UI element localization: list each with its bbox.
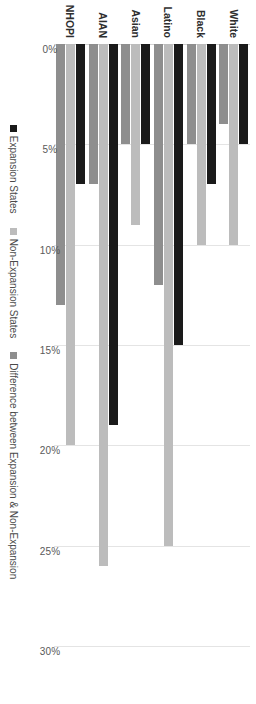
value-axis: 0%5%10%15%20%25%30% xyxy=(24,44,50,646)
bar xyxy=(174,44,183,345)
bar xyxy=(131,44,140,225)
category-axis: WhiteBlackLatinoAsianAIANNHOPI xyxy=(54,0,250,42)
bar xyxy=(154,44,163,285)
value-axis-tick-label: 20% xyxy=(40,445,61,456)
legend-swatch-icon xyxy=(11,228,18,235)
value-axis-tick-label: 5% xyxy=(43,144,58,155)
category-axis-label: Asian xyxy=(130,9,142,38)
bar xyxy=(141,44,150,144)
value-axis-tick-label: 30% xyxy=(40,646,61,657)
chart-figure: WhiteBlackLatinoAsianAIANNHOPI 0%5%10%15… xyxy=(0,0,256,704)
value-axis-tick-label: 0% xyxy=(43,44,58,55)
bar xyxy=(76,44,85,184)
legend-label: Non-Expansion States xyxy=(9,239,20,339)
legend-item[interactable]: Non-Expansion States xyxy=(9,228,20,339)
bar-group xyxy=(152,44,185,646)
bar xyxy=(99,44,108,566)
category-axis-label: Latino xyxy=(162,7,174,39)
bar xyxy=(89,44,98,184)
legend-swatch-icon xyxy=(11,125,18,132)
bar xyxy=(229,44,238,245)
bar xyxy=(219,44,228,124)
bar-group xyxy=(119,44,152,646)
legend-item[interactable]: Difference between Expansion & Non-Expan… xyxy=(9,352,20,579)
bar xyxy=(109,44,118,425)
legend-item[interactable]: Expansion States xyxy=(9,125,20,214)
category-axis-label: White xyxy=(228,9,240,38)
plot-area xyxy=(54,44,250,646)
legend-label: Expansion States xyxy=(9,136,20,214)
bar xyxy=(121,44,130,144)
value-axis-tick-label: 10% xyxy=(40,245,61,256)
category-axis-label: AIAN xyxy=(97,12,109,38)
bar xyxy=(207,44,216,184)
gridline xyxy=(54,646,250,647)
chart-canvas: WhiteBlackLatinoAsianAIANNHOPI 0%5%10%15… xyxy=(0,0,256,704)
bar-group xyxy=(217,44,250,646)
value-axis-tick-label: 15% xyxy=(40,345,61,356)
chart-legend: Expansion StatesNon-Expansion StatesDiff… xyxy=(4,0,24,704)
bar-group xyxy=(185,44,218,646)
bar xyxy=(164,44,173,546)
value-axis-tick-label: 25% xyxy=(40,546,61,557)
bar xyxy=(239,44,248,144)
bar xyxy=(66,44,75,445)
legend-swatch-icon xyxy=(11,352,18,359)
bar-group xyxy=(87,44,120,646)
bar xyxy=(56,44,65,305)
legend-label: Difference between Expansion & Non-Expan… xyxy=(9,363,20,579)
category-axis-label: NHOPI xyxy=(64,5,76,38)
bar xyxy=(187,44,196,144)
category-axis-label: Black xyxy=(195,10,207,38)
bar xyxy=(197,44,206,245)
